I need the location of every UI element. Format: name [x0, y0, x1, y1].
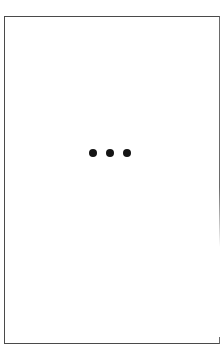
ellipsis-dot-icon: [106, 149, 114, 157]
more-options-button[interactable]: [89, 149, 131, 157]
content-panel: [4, 16, 220, 344]
ellipsis-dot-icon: [89, 149, 97, 157]
ellipsis-dot-icon: [123, 149, 131, 157]
